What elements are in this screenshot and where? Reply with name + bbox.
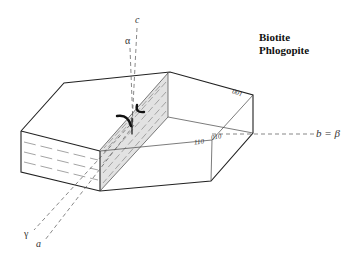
label-c-axis: c xyxy=(135,14,139,25)
label-face-110: 110 xyxy=(194,138,205,147)
b-beta-text: b = β xyxy=(316,127,340,139)
gamma-axis xyxy=(34,125,130,230)
a-axis xyxy=(45,125,134,240)
label-gamma-axis: γ xyxy=(24,228,28,239)
label-a-axis: a xyxy=(36,238,41,249)
axis-lines xyxy=(34,28,315,240)
label-b-beta-axis: b = β xyxy=(316,127,340,139)
title-line-biotite: Biotite xyxy=(259,31,309,44)
shaded-010-plane xyxy=(100,73,168,191)
alpha-axis xyxy=(130,48,133,125)
mineral-title: Biotite Phlogopite xyxy=(259,31,309,57)
label-alpha-axis: α xyxy=(125,35,130,46)
title-line-phlogopite: Phlogopite xyxy=(259,44,309,57)
